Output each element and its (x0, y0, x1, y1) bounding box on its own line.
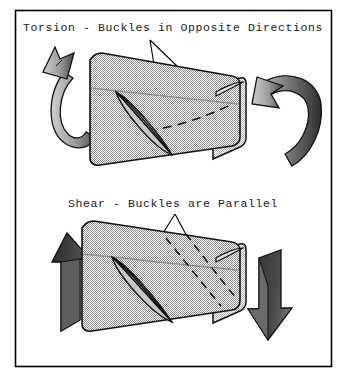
buckling-figure: Torsion - Buckles in Opposite Directions (0, 0, 346, 381)
torsion-caption: Torsion - Buckles in Opposite Directions (23, 21, 323, 34)
figure-root: Torsion - Buckles in Opposite Directions (0, 0, 346, 381)
shear-caption: Shear - Buckles are Parallel (68, 197, 278, 210)
